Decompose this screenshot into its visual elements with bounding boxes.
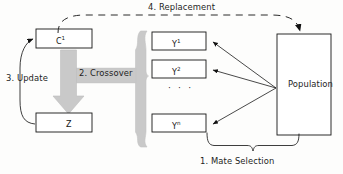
step-mate-selection-label: 1. Mate Selection [200, 157, 274, 165]
node-y1-label: Y1 [172, 38, 180, 49]
mate-selection-line-y1 [213, 42, 276, 88]
mate-selection-connectors [213, 42, 276, 124]
node-yn-label: Yn [172, 120, 180, 131]
mate-selection-line-y2 [213, 70, 276, 88]
step-replacement-label: 4. Replacement [148, 3, 215, 11]
node-z-label: Z [66, 120, 71, 129]
mate-selection-line-yn [213, 88, 276, 124]
step-crossover-label: 2. Crossover [79, 69, 133, 77]
mate-selection-brace [207, 133, 299, 151]
diagram-canvas: C1 Z Y1 Y2 Yn · · · Population 4. Replac… [0, 0, 343, 174]
node-population-label: Population [288, 80, 333, 88]
step-update-label: 3. Update [6, 74, 48, 82]
node-ellipsis-label: · · · [168, 84, 193, 93]
mate-selection-brace-path [207, 133, 299, 151]
replacement-dashed-arc [58, 15, 300, 33]
node-y2-label: Y2 [172, 66, 180, 77]
crossover-brace-shape [132, 31, 149, 147]
node-z-box[interactable] [36, 113, 92, 132]
node-c1-label: C1 [56, 35, 65, 46]
